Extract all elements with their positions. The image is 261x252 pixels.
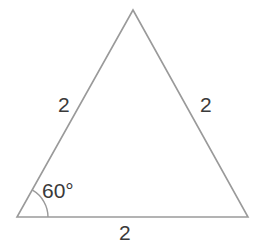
side-label-left: 2	[58, 94, 70, 115]
geometry-diagram-canvas: 2 2 2 60°	[0, 0, 261, 252]
angle-measure-label: 60°	[42, 180, 74, 201]
side-label-right: 2	[200, 94, 212, 115]
triangle-figure	[0, 0, 261, 252]
side-label-bottom: 2	[119, 222, 131, 243]
